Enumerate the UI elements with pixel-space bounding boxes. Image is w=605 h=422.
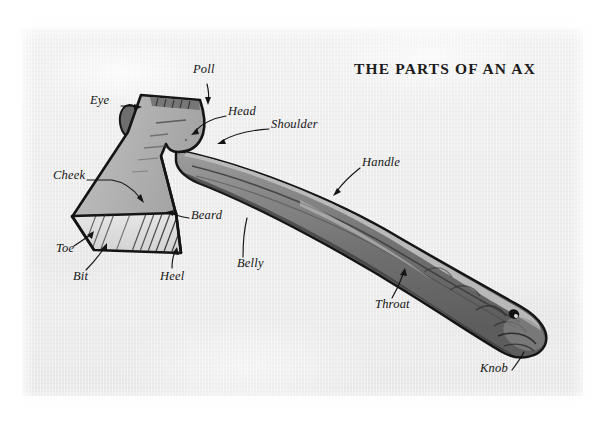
label-heel: Heel — [160, 269, 184, 284]
label-eye: Eye — [90, 93, 109, 108]
cheek-speck — [185, 139, 187, 141]
label-beard: Beard — [191, 208, 222, 223]
label-toe: Toe — [56, 241, 74, 256]
label-handle: Handle — [362, 155, 400, 170]
label-head: Head — [228, 104, 256, 119]
page-title: THE PARTS OF AN AX — [330, 60, 560, 78]
handle-group — [176, 150, 550, 360]
label-shoulder: Shoulder — [271, 117, 318, 132]
arrow-poll — [205, 97, 211, 105]
leader-handle — [337, 168, 360, 191]
leader-heel — [172, 252, 175, 268]
diagram-page: THE PARTS OF AN AX Poll Eye Head Shoulde… — [0, 0, 605, 422]
label-knob: Knob — [480, 361, 508, 376]
arrow-handle — [333, 188, 341, 196]
label-throat: Throat — [375, 297, 410, 312]
bit-band — [72, 213, 181, 253]
handle-body — [176, 150, 546, 357]
leader-shoulder — [222, 129, 269, 141]
label-bit: Bit — [73, 269, 88, 284]
label-cheek: Cheek — [53, 168, 85, 183]
leader-belly — [243, 218, 247, 257]
label-poll: Poll — [193, 62, 215, 77]
label-belly: Belly — [237, 256, 264, 271]
